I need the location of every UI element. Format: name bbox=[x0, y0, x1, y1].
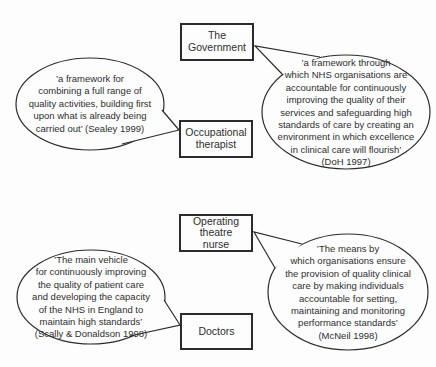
operating-theatre-nurse-box: Operating theatre nurse bbox=[179, 214, 253, 252]
doctors-box-label: Doctors bbox=[198, 326, 234, 338]
sealey-bubble-tail bbox=[122, 110, 179, 144]
scally-bubble-tail bbox=[130, 300, 180, 336]
doctors-box: Doctors bbox=[180, 313, 253, 350]
government-box: The Government bbox=[180, 23, 254, 61]
mcneil-bubble-tail bbox=[254, 232, 302, 268]
operating-theatre-nurse-box-label: Operating theatre nurse bbox=[193, 216, 239, 250]
doh-bubble-tail bbox=[255, 46, 320, 75]
occupational-therapist-box-label: Occupational therapist bbox=[185, 127, 246, 151]
government-box-label: The Government bbox=[188, 30, 246, 54]
occupational-therapist-box: Occupational therapist bbox=[179, 120, 253, 158]
clinical-governance-diagram: The Government Occupational therapist Op… bbox=[0, 0, 436, 367]
